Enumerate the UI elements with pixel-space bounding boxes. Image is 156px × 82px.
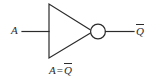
output-signal-label: Q [136, 24, 144, 37]
output-signal-text: Q [136, 24, 144, 37]
not-gate-triangle [49, 4, 93, 58]
inverter-figure: A Q A=Q [0, 0, 156, 82]
equation-operator: = [56, 64, 64, 76]
equation-left-term: A [49, 64, 56, 76]
input-signal-label: A [11, 25, 18, 36]
input-signal-text: A [11, 24, 18, 36]
logic-gate-drawing [0, 0, 156, 82]
equation-right-term: Q [64, 63, 72, 76]
inversion-bubble [91, 24, 106, 39]
feedback-equation-label: A=Q [49, 63, 72, 76]
